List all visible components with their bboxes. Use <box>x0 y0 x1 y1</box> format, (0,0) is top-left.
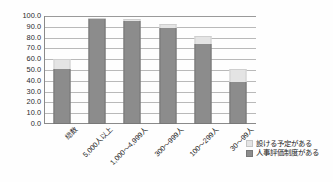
y-axis-tick-label: 80.0 <box>1 34 41 41</box>
bar-stack[interactable] <box>88 18 105 124</box>
y-axis-tick-label: 50.0 <box>1 66 41 73</box>
legend-item-have[interactable]: 人事評価制度がある <box>246 149 332 156</box>
legend-swatch-have-icon <box>246 150 253 157</box>
bar-group <box>115 16 150 124</box>
bar-segment-have[interactable] <box>230 82 247 124</box>
legend-item-plan[interactable]: 設ける予定がある <box>246 140 332 147</box>
bar-group <box>221 16 256 124</box>
bar-stack[interactable] <box>194 36 211 124</box>
bar-group <box>44 16 79 124</box>
bar-segment-have[interactable] <box>124 21 141 124</box>
bars-layer <box>44 16 256 124</box>
legend-label-plan: 設ける予定がある <box>256 140 312 147</box>
y-axis-tick-label: 30.0 <box>1 88 41 95</box>
bar-segment-plan[interactable] <box>53 59 70 69</box>
bar-segment-have[interactable] <box>53 69 70 124</box>
bar-stack[interactable] <box>159 24 176 124</box>
bar-segment-have[interactable] <box>159 28 176 124</box>
y-axis-tick-label: 20.0 <box>1 98 41 105</box>
y-axis-tick-label: 100.0 <box>1 12 41 19</box>
x-axis-tick-label: 300〜999人 <box>153 126 185 158</box>
bar-group <box>185 16 220 124</box>
chart-container: 0.010.020.030.040.050.060.070.080.090.01… <box>0 0 333 182</box>
y-axis-tick-label: 40.0 <box>1 77 41 84</box>
bar-group <box>79 16 114 124</box>
y-axis-tick-label: 70.0 <box>1 44 41 51</box>
bar-segment-have[interactable] <box>194 44 211 124</box>
x-axis-labels: 総数5,000人以上1,000〜4,999人300〜999人100〜299人30… <box>44 126 256 182</box>
legend-swatch-plan-icon <box>246 140 253 147</box>
x-axis-tick-label: 1,000〜4,999人 <box>109 126 149 166</box>
bar-segment-plan[interactable] <box>194 36 211 44</box>
bar-segment-plan[interactable] <box>230 69 247 81</box>
x-axis-tick-label: 100〜299人 <box>188 126 220 158</box>
bar-segment-have[interactable] <box>88 19 105 124</box>
x-axis-tick-label: 総数 <box>64 126 79 141</box>
y-axis-tick-label: 0.0 <box>1 120 41 127</box>
bar-stack[interactable] <box>53 59 70 124</box>
y-axis-tick-label: 10.0 <box>1 109 41 116</box>
y-axis-tick-label: 60.0 <box>1 55 41 62</box>
y-axis-tick-label: 90.0 <box>1 23 41 30</box>
chart-legend: 設ける予定がある 人事評価制度がある <box>246 140 332 159</box>
bar-group <box>150 16 185 124</box>
x-axis-tick-label: 5,000人以上 <box>81 126 114 159</box>
legend-label-have: 人事評価制度がある <box>256 149 319 156</box>
bar-stack[interactable] <box>230 69 247 124</box>
bar-stack[interactable] <box>124 19 141 124</box>
